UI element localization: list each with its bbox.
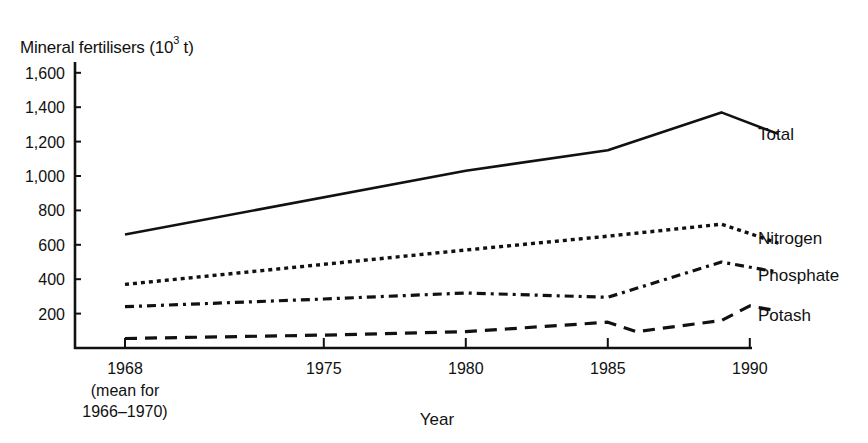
series-label-phosphate: Phosphate xyxy=(758,266,839,285)
y-tick-label: 400 xyxy=(38,271,65,288)
x-tick-label: 1968 xyxy=(107,360,143,377)
y-axis-ticks: 2004006008001,0001,2001,4001,600 xyxy=(25,65,81,323)
x-tick-note: 1966–1970) xyxy=(82,403,167,420)
x-tick-label: 1990 xyxy=(732,360,768,377)
y-tick-label: 600 xyxy=(38,237,65,254)
y-tick-label: 1,000 xyxy=(25,168,65,185)
x-tick-label: 1985 xyxy=(590,360,626,377)
series-label-potash: Potash xyxy=(758,306,811,325)
series-line-total xyxy=(125,112,778,234)
x-tick-label: 1975 xyxy=(306,360,342,377)
series-line-phosphate xyxy=(125,262,778,307)
series-label-total: Total xyxy=(758,125,794,144)
y-tick-label: 1,200 xyxy=(25,134,65,151)
x-axis-ticks: 19681975198019851990(mean for1966–1970) xyxy=(82,338,767,420)
x-tick-note: (mean for xyxy=(91,382,160,399)
series-labels: TotalNitrogenPhosphatePotash xyxy=(758,125,839,325)
y-tick-label: 800 xyxy=(38,202,65,219)
y-tick-label: 1,600 xyxy=(25,65,65,82)
series-label-nitrogen: Nitrogen xyxy=(758,229,822,248)
y-tick-label: 1,400 xyxy=(25,99,65,116)
series-line-potash xyxy=(125,306,778,339)
x-tick-label: 1980 xyxy=(448,360,484,377)
data-lines xyxy=(125,112,778,338)
x-axis-title: Year xyxy=(420,410,455,429)
line-chart: 2004006008001,0001,2001,4001,600 1968197… xyxy=(0,0,868,443)
y-tick-label: 200 xyxy=(38,306,65,323)
